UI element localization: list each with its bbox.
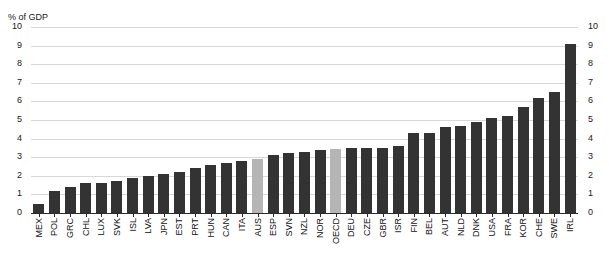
bar-aut[interactable] [440, 127, 451, 213]
bar-slot-gbr[interactable] [375, 27, 391, 213]
bar-slot-isr[interactable] [390, 27, 406, 213]
bar-slot-aut[interactable] [437, 27, 453, 213]
bar-svk[interactable] [111, 181, 122, 213]
bar-slot-svn[interactable] [281, 27, 297, 213]
bar-chart: % of GDP 109876543210 109876543210 MEXPO… [0, 0, 609, 268]
x-label-slot-fin: FIN [406, 218, 422, 266]
bar-chl[interactable] [80, 183, 91, 213]
bar-jpn[interactable] [158, 174, 169, 213]
x-tick-isl [125, 213, 141, 217]
x-label-gbr: GBR [378, 218, 387, 238]
x-label-hun: HUN [206, 218, 215, 238]
bar-slot-lux[interactable] [94, 27, 110, 213]
bar-irl[interactable] [565, 44, 576, 213]
bar-slot-esp[interactable] [265, 27, 281, 213]
bar-lux[interactable] [96, 183, 107, 213]
bar-slot-mex[interactable] [31, 27, 47, 213]
bar-slot-chl[interactable] [78, 27, 94, 213]
bar-slot-can[interactable] [219, 27, 235, 213]
bar-slot-oecd[interactable] [328, 27, 344, 213]
x-label-bel: BEL [425, 218, 434, 235]
x-tick-dnk [469, 213, 485, 217]
y-tick-label-left-3: 3 [17, 152, 22, 161]
x-tick-aus [250, 213, 266, 217]
bar-che[interactable] [533, 98, 544, 213]
bar-slot-swe[interactable] [547, 27, 563, 213]
bar-slot-jpn[interactable] [156, 27, 172, 213]
x-tick-swe [547, 213, 563, 217]
x-label-nld: NLD [456, 218, 465, 236]
bar-slot-nor[interactable] [312, 27, 328, 213]
bar-slot-nzl[interactable] [297, 27, 313, 213]
x-tick-esp [265, 213, 281, 217]
x-tick-bel [422, 213, 438, 217]
bar-slot-nld[interactable] [453, 27, 469, 213]
bar-slot-prt[interactable] [187, 27, 203, 213]
bar-oecd[interactable] [330, 149, 341, 213]
bar-fra[interactable] [502, 116, 513, 213]
bar-pol[interactable] [49, 191, 60, 213]
bar-gbr[interactable] [377, 148, 388, 213]
x-label-aut: AUT [441, 218, 450, 236]
x-tick-aut [437, 213, 453, 217]
bar-slot-dnk[interactable] [469, 27, 485, 213]
y-tick-label-right-0: 0 [588, 208, 593, 217]
bar-lva[interactable] [143, 176, 154, 213]
bar-slot-bel[interactable] [422, 27, 438, 213]
bar-slot-svk[interactable] [109, 27, 125, 213]
y-tick-label-left-8: 8 [17, 59, 22, 68]
bar-slot-kor[interactable] [515, 27, 531, 213]
bar-isl[interactable] [127, 178, 138, 213]
bar-slot-lva[interactable] [140, 27, 156, 213]
bar-esp[interactable] [268, 155, 279, 213]
bar-slot-cze[interactable] [359, 27, 375, 213]
x-axis-ticks [31, 213, 578, 217]
bar-slot-isl[interactable] [125, 27, 141, 213]
bar-slot-irl[interactable] [562, 27, 578, 213]
x-label-dnk: DNK [472, 218, 481, 237]
bar-slot-pol[interactable] [47, 27, 63, 213]
bar-cze[interactable] [361, 148, 372, 213]
bar-prt[interactable] [190, 168, 201, 213]
bar-est[interactable] [174, 172, 185, 213]
x-label-kor: KOR [519, 218, 528, 238]
bar-kor[interactable] [518, 107, 529, 213]
bar-bel[interactable] [424, 133, 435, 213]
bar-can[interactable] [221, 163, 232, 213]
bar-nor[interactable] [315, 150, 326, 213]
y-tick-label-right-2: 2 [588, 171, 593, 180]
bar-nzl[interactable] [299, 152, 310, 213]
bar-fin[interactable] [408, 133, 419, 213]
bar-slot-grc[interactable] [62, 27, 78, 213]
bar-isr[interactable] [393, 146, 404, 213]
x-label-slot-mex: MEX [31, 218, 47, 266]
x-tick-pol [47, 213, 63, 217]
x-label-isl: ISL [128, 218, 137, 232]
bar-svn[interactable] [283, 153, 294, 213]
bar-slot-deu[interactable] [344, 27, 360, 213]
x-tick-chl [78, 213, 94, 217]
bar-slot-che[interactable] [531, 27, 547, 213]
bar-deu[interactable] [346, 148, 357, 213]
bar-slot-ita[interactable] [234, 27, 250, 213]
bar-nld[interactable] [455, 126, 466, 213]
y-tick-label-left-5: 5 [17, 115, 22, 124]
bar-mex[interactable] [33, 204, 44, 213]
bar-slot-hun[interactable] [203, 27, 219, 213]
bar-grc[interactable] [65, 187, 76, 213]
x-label-esp: ESP [269, 218, 278, 236]
bar-slot-usa[interactable] [484, 27, 500, 213]
bar-slot-aus[interactable] [250, 27, 266, 213]
x-tick-can [219, 213, 235, 217]
x-tick-svn [281, 213, 297, 217]
bar-hun[interactable] [205, 165, 216, 213]
x-label-slot-aus: AUS [250, 218, 266, 266]
bar-usa[interactable] [486, 118, 497, 213]
bar-slot-fra[interactable] [500, 27, 516, 213]
bar-swe[interactable] [549, 92, 560, 213]
bar-slot-est[interactable] [172, 27, 188, 213]
bar-dnk[interactable] [471, 122, 482, 213]
bar-ita[interactable] [236, 161, 247, 213]
bar-aus[interactable] [252, 159, 263, 213]
bar-slot-fin[interactable] [406, 27, 422, 213]
